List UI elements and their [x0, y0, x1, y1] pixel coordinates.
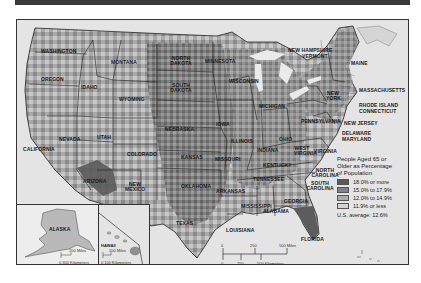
legend-label: 12.0% to 14.9% — [353, 195, 392, 201]
state-label-texas: TEXAS — [176, 221, 193, 226]
state-label-indiana: INDIANA — [257, 148, 279, 153]
state-label-south-dakota: SOUTH DAKOTA — [167, 83, 195, 93]
state-label-utah: UTAH — [97, 135, 111, 140]
state-label-north-dakota: NORTH DAKOTA — [167, 56, 195, 66]
legend-swatch-medium-dark — [337, 187, 349, 193]
state-label-nebraska: NEBRASKA — [165, 127, 194, 132]
state-label-wisconsin: WISCONSIN — [229, 79, 259, 84]
state-label-virginia: VIRGINIA — [314, 149, 337, 154]
legend-swatch-dark — [337, 179, 349, 185]
alaska-shape — [17, 205, 100, 265]
legend-item: 12.0% to 14.9% — [337, 194, 409, 201]
legend-item: 18.0% or more — [337, 178, 409, 185]
state-label-colorado: COLORADO — [127, 152, 157, 157]
legend-swatch-medium-light — [337, 195, 349, 201]
legend-item: 11.9% or less — [337, 202, 409, 209]
legend-swatch-light — [337, 203, 349, 209]
scale-km-500: 500 Kilometers — [257, 261, 284, 265]
state-label-oregon: OREGON — [41, 77, 64, 82]
legend-item: 15.0% to 17.9% — [337, 186, 409, 193]
state-label-south-carolina: SOUTH CAROLINA — [306, 181, 334, 191]
scale-km-250: 250 — [237, 261, 244, 265]
legend: People Aged 65 or Older as Percentage of… — [337, 156, 409, 218]
state-label-iowa: IOWA — [216, 122, 230, 127]
map-frame: WASHINGTON OREGON IDAHO MONTANA WYOMING … — [16, 19, 409, 265]
alaska-label: ALASKA — [49, 227, 70, 232]
legend-label: 18.0% or more — [353, 179, 389, 185]
state-label-new-mexico: NEW MEXICO — [125, 182, 145, 192]
state-label-washington: WASHINGTON — [41, 49, 76, 54]
state-label-arizona: ARIZONA — [83, 179, 106, 184]
callout-vermont: VERMONT — [302, 54, 328, 59]
state-label-oklahoma: OKLAHOMA — [181, 184, 211, 189]
scale-miles-0: 0 — [221, 243, 223, 248]
state-label-tennessee: TENNESSEE — [253, 177, 284, 182]
state-label-california: CALIFORNIA — [23, 147, 55, 152]
hawaii-scale-km: 0 100 Kilometers — [101, 260, 131, 265]
alaska-inset: ALASKA 200 Miles 0 300 Kilometers — [16, 204, 99, 265]
state-label-wyoming: WYOMING — [119, 97, 145, 102]
state-label-louisiana: LOUISIANA — [226, 228, 254, 233]
state-label-missouri: MISSOURI — [215, 157, 241, 162]
state-label-pennsylvania: PENNSYLVANIA — [301, 119, 341, 124]
state-label-ohio: OHIO — [279, 137, 292, 142]
legend-label: 15.0% to 17.9% — [353, 187, 392, 193]
callout-maryland: MARYLAND — [342, 137, 371, 142]
state-label-kansas: KANSAS — [181, 155, 203, 160]
legend-title-line-2: Older as Percentage — [337, 163, 409, 170]
state-label-west-virginia: WEST VIRGINIA — [294, 146, 310, 156]
scale-km-0: 0 — [221, 261, 223, 265]
callout-connecticut: CONNECTICUT — [359, 109, 397, 114]
legend-title-line-3: of Population — [337, 170, 409, 177]
hawaii-scale-miles: 100 Miles — [109, 248, 126, 253]
state-label-illinois: ILLINOIS — [231, 139, 253, 144]
state-label-north-carolina: NORTH CAROLINA — [311, 168, 339, 178]
state-label-montana: MONTANA — [111, 60, 137, 65]
callout-massachusetts: MASSACHUSETTS — [359, 88, 405, 93]
hawaii-shape — [99, 205, 151, 265]
top-band — [15, 0, 410, 5]
alaska-scale-miles: 200 Miles — [69, 248, 86, 253]
state-label-alabama: ALABAMA — [263, 209, 289, 214]
scale-miles-500: 500 Miles — [279, 243, 296, 248]
state-label-michigan: MICHIGAN — [259, 104, 285, 109]
state-label-florida: FLORIDA — [301, 237, 324, 242]
state-label-nevada: NEVADA — [59, 137, 80, 142]
state-label-idaho: IDAHO — [81, 85, 98, 90]
state-label-kentucky: KENTUCKY — [263, 163, 292, 168]
state-label-new-york: NEW YORK — [326, 91, 340, 101]
scale-miles-250: 250 — [250, 243, 257, 248]
state-label-georgia: GEORGIA — [284, 199, 308, 204]
legend-title-line-1: People Aged 65 or — [337, 156, 409, 163]
alaska-scale-km: 0 300 Kilometers — [59, 260, 89, 265]
us-average: U.S. average: 12.6% — [337, 212, 409, 218]
legend-label: 11.9% or less — [353, 203, 386, 209]
state-label-minnesota: MINNESOTA — [205, 59, 236, 64]
callout-new-jersey: NEW JERSEY — [344, 121, 378, 126]
state-label-arkansas: ARKANSAS — [216, 189, 245, 194]
hawaii-inset: HAWAII 100 Miles 0 100 Kilometers — [98, 204, 150, 265]
state-label-maine: MAINE — [351, 61, 368, 66]
